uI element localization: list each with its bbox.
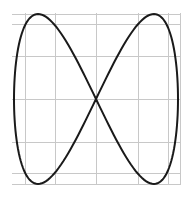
- lissajous-plot: [0, 0, 192, 198]
